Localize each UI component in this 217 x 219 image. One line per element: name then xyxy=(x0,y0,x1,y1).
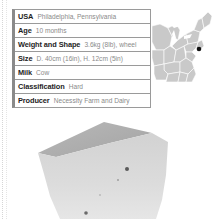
fact-value: Hard xyxy=(69,83,83,90)
fact-value: 3.6kg (8lb), wheel xyxy=(84,41,136,48)
fact-value: Philadelphia, Pennsylvania xyxy=(37,13,116,20)
fact-row-age: Age 10 months xyxy=(15,24,150,38)
cheese-hole xyxy=(117,179,119,181)
fact-row-classification: Classification Hard xyxy=(15,80,150,94)
fact-row-milk: Milk Cow xyxy=(15,66,150,80)
fact-value: D. 40cm (16in), H. 12cm (5in) xyxy=(36,55,122,62)
fact-label: Weight and Shape xyxy=(18,40,80,49)
fact-row-origin: USA Philadelphia, Pennsylvania xyxy=(15,10,150,24)
fact-label: Classification xyxy=(18,82,65,91)
cheese-hole xyxy=(125,167,129,171)
fact-value: 10 months xyxy=(36,27,67,34)
us-east-states xyxy=(152,12,212,82)
fact-row-size: Size D. 40cm (16in), H. 12cm (5in) xyxy=(15,52,150,66)
location-marker-icon xyxy=(197,47,202,52)
fact-row-weight-shape: Weight and Shape 3.6kg (8lb), wheel xyxy=(15,38,150,52)
fact-label: Size xyxy=(18,54,32,63)
fact-label: Milk xyxy=(18,68,32,77)
cheese-hole xyxy=(84,211,88,215)
fact-value: Cow xyxy=(36,69,49,76)
cheese-facts-table: USA Philadelphia, Pennsylvania Age 10 mo… xyxy=(12,9,151,108)
fact-label: Age xyxy=(18,26,32,35)
cheese-hole xyxy=(99,194,101,196)
fact-label: USA xyxy=(18,12,33,21)
cheese-wedge-photo xyxy=(0,100,217,219)
locator-map xyxy=(150,6,217,82)
